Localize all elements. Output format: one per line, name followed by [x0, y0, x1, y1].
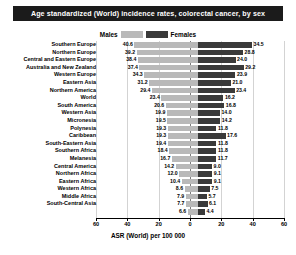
bar-value-male: 8.6 — [176, 186, 183, 192]
x-axis-title: ASR (World) per 100 000 — [0, 232, 296, 239]
category-label: Eastern Africa — [0, 178, 100, 186]
bar-pair: 14.29.0 — [100, 163, 296, 171]
bar-value-male: 19.3 — [156, 126, 166, 132]
bar-value-male: 20.6 — [154, 103, 164, 109]
bar-value-female: 11.8 — [218, 126, 228, 132]
x-tick-label: 40 — [124, 221, 130, 227]
bar-pair: 18.411.8 — [100, 147, 296, 155]
category-label: Southern Europe — [0, 41, 100, 49]
bar-pair: 19.311.8 — [100, 125, 296, 133]
chart-row: Western Africa8.67.5 — [0, 185, 296, 193]
bar-male — [139, 65, 198, 71]
category-label: Australia and New Zealand — [0, 64, 100, 72]
bar-pair: 37.429.2 — [100, 64, 296, 72]
bar-male — [138, 57, 198, 63]
bar-value-male: 19.9 — [155, 110, 165, 116]
bar-value-female: 7.5 — [211, 186, 218, 192]
bar-value-male: 34.3 — [133, 72, 143, 78]
bar-female — [198, 65, 244, 71]
bar-value-male: 19.4 — [156, 141, 166, 147]
bar-pair: 19.914.0 — [100, 109, 296, 117]
bar-female — [198, 126, 216, 132]
bar-value-female: 9.1 — [214, 179, 221, 185]
bar-male — [144, 72, 198, 78]
bar-value-female: 9.1 — [214, 171, 221, 177]
bar-value-female: 5.7 — [208, 194, 215, 200]
bar-pair: 19.514.2 — [100, 117, 296, 125]
bar-pair: 38.424.0 — [100, 56, 296, 64]
category-label: Northern America — [0, 87, 100, 95]
bar-male — [137, 50, 198, 56]
chart-title: Age standardized (World) incidence rates… — [13, 6, 283, 21]
bar-female — [198, 194, 207, 200]
chart-row: Polynesia19.311.8 — [0, 125, 296, 133]
chart-row: Western Asia19.914.0 — [0, 109, 296, 117]
category-label: South-Central Asia — [0, 200, 100, 208]
chart-row: Australia and New Zealand37.429.2 — [0, 64, 296, 72]
bar-female — [198, 88, 235, 94]
bar-pair: 34.323.9 — [100, 71, 296, 79]
x-tick-label: 40 — [250, 221, 256, 227]
chart-row: South America20.616.8 — [0, 102, 296, 110]
category-label: South America — [0, 102, 100, 110]
chart-row: Micronesia19.514.2 — [0, 117, 296, 125]
bar-male — [186, 201, 198, 207]
bar-value-male: 12.0 — [168, 171, 178, 177]
bar-female — [198, 148, 216, 154]
bar-pair: 40.634.5 — [100, 41, 296, 49]
bar-female — [198, 133, 226, 139]
bar-pair: 12.09.1 — [100, 170, 296, 178]
bar-female — [198, 201, 208, 207]
bar-female — [198, 110, 220, 116]
chart-row: Southern Africa18.411.8 — [0, 147, 296, 155]
bar-value-female: 17.6 — [227, 133, 237, 139]
category-label: Central America — [0, 163, 100, 171]
bar-value-female: 11.7 — [218, 156, 228, 162]
category-label: Polynesia — [0, 125, 100, 133]
chart-row: Western Europe34.323.9 — [0, 71, 296, 79]
bar-value-female: 24.0 — [237, 57, 247, 63]
bar-male — [185, 186, 198, 192]
bar-value-female: 16.8 — [226, 103, 236, 109]
legend-swatch-males — [121, 31, 143, 38]
chart-row: Middle Africa7.95.7 — [0, 193, 296, 201]
bar-value-female: 14.0 — [221, 110, 231, 116]
bar-female — [198, 164, 212, 170]
chart-row: Central and Eastern Europe38.424.0 — [0, 56, 296, 64]
category-label: Middle Africa — [0, 193, 100, 201]
bar-female — [198, 80, 231, 86]
bar-value-male: 10.4 — [170, 179, 180, 185]
bar-pair: 7.95.7 — [100, 193, 296, 201]
category-label: Caribbean — [0, 132, 100, 140]
bar-value-female: 4.4 — [206, 209, 213, 215]
bar-value-female: 29.2 — [245, 65, 255, 71]
category-label: Micronesia — [0, 117, 100, 125]
bar-value-female: 23.9 — [237, 72, 247, 78]
bar-male — [176, 164, 198, 170]
category-label: Western Africa — [0, 185, 100, 193]
bar-value-female: 34.5 — [254, 42, 264, 48]
bar-value-male: 6.6 — [179, 209, 186, 215]
bar-female — [198, 42, 252, 48]
bar-rows: Southern Europe40.634.5Northern Europe39… — [0, 41, 296, 218]
bar-male — [172, 156, 198, 162]
bar-pair: 23.416.2 — [100, 94, 296, 102]
bar-value-male: 19.5 — [156, 118, 166, 124]
bar-pair: 19.317.6 — [100, 132, 296, 140]
chart-row: South-Central Asia7.76.1 — [0, 200, 296, 208]
bar-value-female: 23.4 — [236, 88, 246, 94]
bar-value-male: 40.6 — [123, 42, 133, 48]
category-label: Northern Europe — [0, 49, 100, 57]
chart-row: Northern America29.423.4 — [0, 87, 296, 95]
bar-male — [134, 42, 198, 48]
bar-value-male: 18.4 — [158, 148, 168, 154]
bar-value-male: 14.2 — [164, 164, 174, 170]
bar-value-female: 28.8 — [245, 50, 255, 56]
bar-male — [168, 141, 198, 147]
bar-value-male: 31.2 — [138, 80, 148, 86]
chart-row: Caribbean19.317.6 — [0, 132, 296, 140]
chart-row: Melanesia16.711.7 — [0, 155, 296, 163]
category-label: Western Asia — [0, 109, 100, 117]
bar-value-male: 7.7 — [177, 201, 184, 207]
x-tick-label: 20 — [156, 221, 162, 227]
